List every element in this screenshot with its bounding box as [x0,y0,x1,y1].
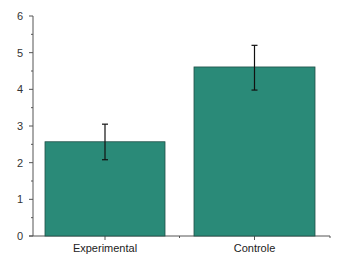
x-axis [29,236,330,240]
category-labels: ExperimentalControle [73,242,275,254]
bar-controle [194,67,315,236]
category-label: Controle [234,242,276,254]
category-label: Experimental [73,242,137,254]
y-tick-label: 4 [17,83,23,95]
y-tick-label: 0 [17,230,23,242]
y-tick-label: 1 [17,193,23,205]
bar-chart: 0123456 ExperimentalControle [0,0,344,266]
y-tick-label: 3 [17,120,23,132]
bars [45,67,315,236]
y-axis: 0123456 [17,10,33,242]
y-tick-label: 5 [17,47,23,59]
y-tick-label: 6 [17,10,23,22]
y-tick-label: 2 [17,157,23,169]
